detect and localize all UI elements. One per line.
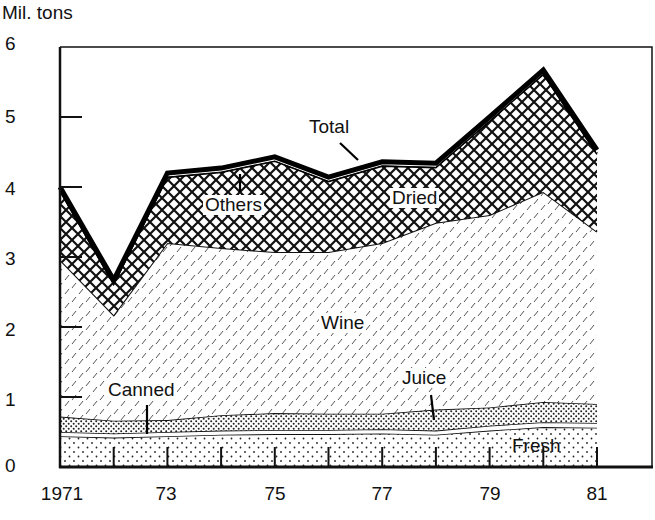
y-tick-label-5: 5 bbox=[5, 106, 25, 128]
x-tick-label-77: 77 bbox=[371, 483, 392, 505]
x-tick-label-1971: 1971 bbox=[41, 483, 83, 505]
y-tick-label-6: 6 bbox=[5, 33, 25, 55]
y-tick-label-2: 2 bbox=[5, 319, 25, 341]
x-tick-label-79: 79 bbox=[479, 483, 500, 505]
y-tick-label-4: 4 bbox=[5, 178, 25, 200]
label-juice: Juice bbox=[400, 368, 448, 388]
label-wine: Wine bbox=[319, 313, 366, 333]
label-others: Others bbox=[203, 195, 264, 215]
label-fresh: Fresh bbox=[510, 436, 563, 456]
y-tick-label-3: 3 bbox=[5, 248, 25, 270]
y-tick-label-0: 0 bbox=[5, 455, 25, 477]
total-pointer bbox=[340, 143, 358, 160]
label-dried: Dried bbox=[390, 188, 439, 208]
x-tick-label-73: 73 bbox=[155, 483, 176, 505]
label-canned: Canned bbox=[106, 380, 177, 400]
y-tick-label-1: 1 bbox=[5, 389, 25, 411]
x-tick-label-75: 75 bbox=[264, 483, 285, 505]
label-total: Total bbox=[307, 117, 351, 137]
y-axis-title: Mil. tons bbox=[2, 2, 73, 24]
x-tick-label-81: 81 bbox=[586, 483, 607, 505]
